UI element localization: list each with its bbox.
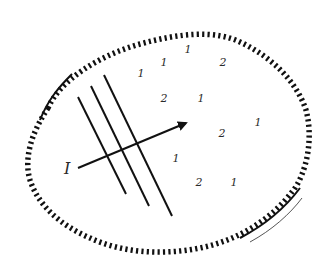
boundary-smooth-segment-inner [250,198,302,242]
particle-labels: 11122121121 [138,43,262,189]
particle-label: 1 [161,56,168,69]
particle-label: 2 [218,127,226,140]
particle-label: 1 [255,116,262,129]
particle-label: 1 [138,67,145,80]
wavefront-lines [78,75,172,216]
particle-label: 2 [219,56,227,69]
boundary-smooth-segment [240,188,300,238]
particle-label: 1 [173,152,180,165]
particle-label: 2 [195,176,203,189]
particle-label: 2 [160,92,168,105]
hatched-boundary [28,34,309,252]
ray-label: I [63,159,71,178]
particle-label: 1 [185,43,192,56]
particle-label: 1 [198,92,205,105]
particle-label: 1 [231,176,238,189]
diagram-canvas: I 11122121121 [0,0,328,276]
wavefront-line [91,86,149,206]
